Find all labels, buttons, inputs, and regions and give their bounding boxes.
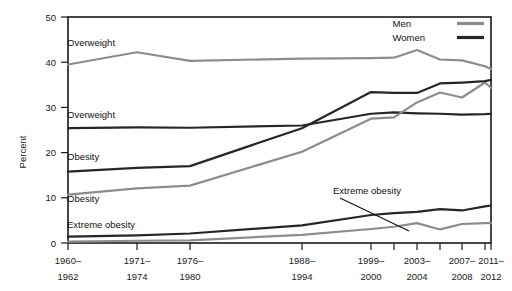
x-label-2003-2004-line1: 2003– — [404, 255, 431, 266]
x-label-1960-1962-line2: 1962 — [57, 271, 78, 282]
legend-label-women: Women — [392, 32, 425, 43]
x-label-1999-2000-line2: 2000 — [360, 271, 381, 282]
x-label-2007-2008-line2: 2008 — [451, 271, 472, 282]
series-label-extreme-obesity-men: Extreme obesity — [333, 185, 401, 196]
x-label-2007-2008-line1: 2007– — [449, 255, 476, 266]
series-label-obesity-men: Obesity — [67, 193, 99, 204]
y-tick-label-40: 40 — [45, 57, 56, 68]
x-label-1988-1994-line1: 1988– — [289, 255, 316, 266]
series-label-extreme-obesity-women: Extreme obesity — [67, 219, 135, 230]
x-label-1960-1962-line1: 1960– — [55, 255, 82, 266]
y-tick-label-0: 0 — [51, 238, 56, 249]
series-label-overweight-women: Overweight — [67, 109, 115, 120]
x-label-1988-1994-line2: 1994 — [291, 271, 312, 282]
x-label-1971-1974-line2: 1974 — [126, 271, 147, 282]
series-label-obesity-women: Obesity — [67, 151, 99, 162]
series-label-overweight-men: Overweight — [67, 37, 115, 48]
x-label-2011-2012-line1: 2011– — [478, 255, 504, 266]
x-label-2003-2004-line2: 2004 — [406, 271, 427, 282]
x-label-1976-1980-line2: 1980 — [179, 271, 200, 282]
y-tick-label-30: 30 — [45, 102, 56, 113]
y-tick-label-10: 10 — [45, 192, 56, 203]
x-label-2011-2012-line2: 2012 — [480, 271, 501, 282]
y-tick-label-50: 50 — [45, 12, 56, 23]
obesity-trend-line-chart: 50 40 30 20 10 0 Percent 1960– 1962 1971… — [0, 0, 512, 291]
x-label-1971-1974-line1: 1971– — [124, 255, 151, 266]
legend-label-men: Men — [393, 18, 411, 29]
y-axis-title: Percent — [17, 135, 28, 168]
x-label-1999-2000-line1: 1999– — [358, 255, 385, 266]
y-tick-label-20: 20 — [45, 147, 56, 158]
x-label-1976-1980-line1: 1976– — [177, 255, 204, 266]
